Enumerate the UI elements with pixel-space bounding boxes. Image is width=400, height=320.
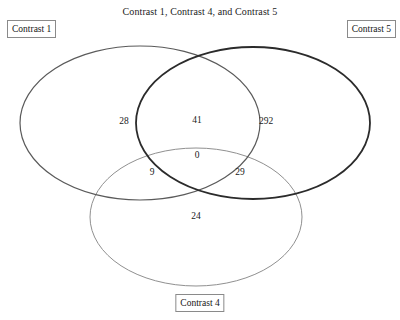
ellipse-contrast-5 [136,47,370,199]
region-count-contrast-4-and-5: 29 [235,167,245,178]
ellipse-contrast-1 [20,46,260,200]
region-count-contrast-1-and-4: 9 [150,167,155,178]
set-label-contrast-4: Contrast 4 [175,294,224,312]
region-count-contrast-1-only: 28 [119,116,129,127]
set-label-contrast-5: Contrast 5 [347,20,396,38]
venn-canvas [0,0,400,320]
region-count-all-three: 0 [195,150,200,161]
venn-diagram-page: Contrast 1, Contrast 4, and Contrast 5 C… [0,0,400,320]
set-label-contrast-1: Contrast 1 [7,20,56,38]
region-count-contrast-5-only: 292 [259,116,273,127]
region-count-contrast-1-and-5: 41 [192,115,202,126]
region-count-contrast-4-only: 24 [191,211,201,222]
